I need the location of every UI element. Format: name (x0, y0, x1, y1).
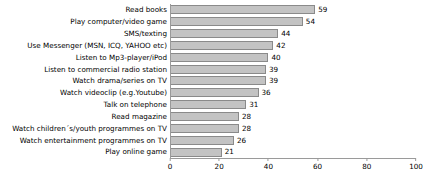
x-tick-label: 80 (362, 163, 371, 170)
bar (170, 53, 268, 62)
y-axis-line (170, 4, 171, 158)
x-tick-mark (416, 158, 417, 161)
bar-row: Use Messenger (MSN, ICQ, YAHOO etc)42 (170, 40, 416, 52)
category-label: Read magazine (112, 113, 167, 120)
bar (170, 41, 273, 50)
bar (170, 17, 303, 26)
bar-row: Talk on telephone31 (170, 99, 416, 111)
x-tick: 20 (215, 158, 224, 170)
bar-row: Play computer/video game54 (170, 16, 416, 28)
x-tick: 60 (313, 158, 322, 170)
x-tick: 0 (168, 158, 173, 170)
bar (170, 148, 222, 157)
bar-rows: Read books59Play computer/video game54SM… (170, 4, 416, 158)
bar-value-label: 28 (242, 125, 251, 132)
bar (170, 5, 315, 14)
bar-row: Watch children´s/youth programmes on TV2… (170, 122, 416, 134)
category-label: Watch videoclip (e.g.Youtube) (60, 89, 167, 96)
plot-area: Read books59Play computer/video game54SM… (170, 4, 416, 158)
bar-value-label: 36 (262, 89, 271, 96)
bar-value-label: 26 (237, 137, 246, 144)
x-tick-mark (268, 158, 269, 161)
bar-value-label: 42 (276, 42, 285, 49)
category-label: Watch drama/series on TV (72, 77, 167, 84)
bar-value-label: 39 (269, 77, 278, 84)
bar-value-label: 40 (271, 54, 280, 61)
category-label: Play computer/video game (70, 18, 167, 25)
category-label: Read books (125, 6, 167, 13)
x-tick: 80 (362, 158, 371, 170)
x-tick-label: 40 (264, 163, 273, 170)
bar-value-label: 31 (249, 101, 258, 108)
bar-row: Read magazine28 (170, 111, 416, 123)
category-label: Play online game (105, 148, 167, 155)
category-label: Talk on telephone (104, 101, 167, 108)
x-tick-mark (219, 158, 220, 161)
bar-value-label: 59 (318, 6, 327, 13)
x-tick-label: 0 (168, 163, 173, 170)
x-tick-mark (169, 158, 170, 161)
x-tick-mark (366, 158, 367, 161)
category-label: SMS/texting (124, 30, 167, 37)
category-label: Use Messenger (MSN, ICQ, YAHOO etc) (27, 42, 167, 49)
bar-row: Watch videoclip (e.g.Youtube)36 (170, 87, 416, 99)
x-tick: 100 (409, 158, 423, 170)
bar (170, 100, 246, 109)
x-axis-ticks: 020406080100 (170, 158, 416, 176)
bar-row: SMS/texting44 (170, 28, 416, 40)
bar-row: Play online game21 (170, 146, 416, 158)
bar-value-label: 44 (281, 30, 290, 37)
x-tick-label: 100 (409, 163, 423, 170)
bar-chart: Read books59Play computer/video game54SM… (0, 0, 424, 176)
bar-row: Listen to commercial radio station39 (170, 63, 416, 75)
x-tick-label: 60 (313, 163, 322, 170)
bar-value-label: 28 (242, 113, 251, 120)
bar (170, 65, 266, 74)
bar (170, 76, 266, 85)
x-tick-mark (317, 158, 318, 161)
bar-row: Listen to Mp3-player/iPod40 (170, 51, 416, 63)
bar-value-label: 39 (269, 66, 278, 73)
category-label: Listen to Mp3-player/iPod (76, 54, 167, 61)
bar-row: Read books59 (170, 4, 416, 16)
category-label: Listen to commercial radio station (44, 66, 167, 73)
category-label: Watch children´s/youth programmes on TV (12, 125, 167, 132)
bar (170, 124, 239, 133)
x-tick: 40 (264, 158, 273, 170)
bar (170, 136, 234, 145)
bar-value-label: 54 (306, 18, 315, 25)
bar-row: Watch drama/series on TV39 (170, 75, 416, 87)
bar (170, 88, 259, 97)
x-tick-label: 20 (215, 163, 224, 170)
bar (170, 112, 239, 121)
category-label: Watch entertainment programmes on TV (20, 137, 167, 144)
bar (170, 29, 278, 38)
bar-value-label: 21 (225, 148, 234, 155)
bar-row: Watch entertainment programmes on TV26 (170, 134, 416, 146)
